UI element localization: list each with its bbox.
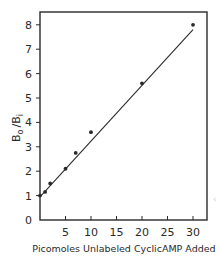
- y-axis-title: Bo/Bi: [10, 114, 25, 142]
- y-tick-label: 3: [25, 141, 32, 154]
- y-tick-label: 6: [25, 68, 32, 81]
- x-tick-label: 15: [110, 226, 124, 239]
- y-tick-label: 1: [25, 190, 32, 203]
- data-point: [89, 130, 93, 134]
- data-points: [38, 23, 195, 198]
- data-point: [74, 151, 78, 155]
- y-tick-label: 8: [25, 19, 32, 32]
- y-tick-label: 0: [25, 214, 32, 227]
- y-title-sub-o: o: [16, 129, 25, 134]
- y-tick-label: 2: [25, 165, 32, 178]
- y-tick-label: 5: [25, 92, 32, 105]
- data-point: [191, 23, 195, 27]
- data-point: [48, 182, 52, 186]
- data-point: [43, 190, 47, 194]
- data-point: [64, 167, 68, 171]
- x-axis-title: Picomoles Unlabeled CyclicAMP Added: [32, 243, 215, 254]
- y-title-sub-i: i: [16, 114, 25, 116]
- x-tick-label: 10: [84, 226, 98, 239]
- fit-line: [40, 30, 193, 197]
- chart-canvas: 012345678 51015202530 Bo/Bi Picomoles Un…: [0, 0, 220, 260]
- x-tick-label: 20: [135, 226, 149, 239]
- x-tick-label: 25: [161, 226, 175, 239]
- data-point: [140, 81, 144, 85]
- plot-frame: [40, 12, 207, 220]
- y-tick-label: 4: [25, 116, 32, 129]
- x-tick-label: 5: [62, 226, 69, 239]
- x-tick-label: 30: [186, 226, 200, 239]
- y-title-b2: B: [10, 116, 23, 124]
- y-title-b1: B: [10, 134, 23, 142]
- y-axis-ticks: 012345678: [25, 19, 40, 227]
- y-tick-label: 7: [25, 43, 32, 56]
- stray-mark: ‹: [213, 194, 217, 204]
- svg-text:Bo/Bi: Bo/Bi: [10, 114, 25, 142]
- data-point: [38, 194, 42, 198]
